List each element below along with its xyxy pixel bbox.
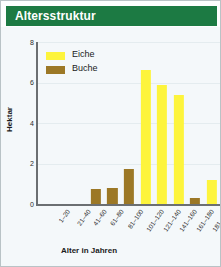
y-axis-tick-label: 0 (20, 201, 34, 208)
y-axis-title: Hektar (5, 96, 14, 144)
bar-buche-101-120[interactable] (124, 169, 134, 204)
title-banner: Altersstruktur (6, 6, 217, 26)
x-axis-tick-label: 1–20 (57, 208, 71, 224)
legend-item-eiche[interactable]: Eiche (46, 49, 138, 63)
x-axis-line (36, 204, 220, 206)
y-axis-tick-label: 6 (20, 79, 34, 86)
bar-slot (137, 42, 154, 204)
y-axis-tick-label: 4 (20, 120, 34, 127)
altersstruktur-figure: Altersstruktur Hektar Alter in Jahren 02… (0, 0, 221, 267)
bar-slot (170, 42, 187, 204)
x-axis-tick-label: 81–100 (127, 208, 145, 230)
bar-slot (203, 42, 220, 204)
x-axis-tick-label: 41–60 (92, 208, 108, 227)
x-axis-ticks: 1–2021–4041–6061–8081–100101–120121–1401… (38, 208, 221, 248)
bar-eiche->200[interactable] (207, 180, 217, 204)
y-axis-tick-label: 8 (20, 39, 34, 46)
chart-plot-area: Hektar Alter in Jahren 02468 1–2021–4041… (1, 27, 221, 267)
legend-swatch-buche (46, 66, 65, 74)
chart-legend: EicheBuche (46, 49, 138, 77)
bar-eiche-121-140[interactable] (140, 70, 150, 204)
y-axis-tick-label: 2 (20, 160, 34, 167)
y-axis-ticks: 02468 (18, 27, 34, 267)
legend-label: Buche (72, 63, 98, 73)
bar-eiche-141-160[interactable] (157, 85, 167, 204)
page-title: Altersstruktur (15, 9, 96, 23)
legend-item-buche[interactable]: Buche (46, 63, 138, 77)
bar-eiche-161-180[interactable] (174, 95, 184, 204)
legend-swatch-eiche (46, 52, 65, 60)
x-axis-tick-label: 61–80 (109, 208, 125, 227)
x-axis-tick-label: 21–40 (75, 208, 91, 227)
bar-buche-181-200[interactable] (190, 198, 200, 204)
bar-buche-81-100[interactable] (107, 188, 117, 204)
bar-buche-61-80[interactable] (91, 189, 101, 204)
bar-slot (187, 42, 204, 204)
bar-slot (154, 42, 171, 204)
legend-label: Eiche (72, 49, 95, 59)
